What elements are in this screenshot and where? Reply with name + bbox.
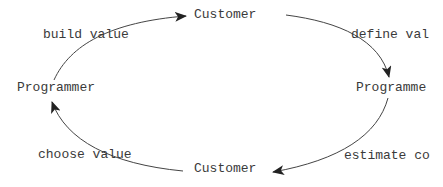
node-programmer-left: Programmer	[17, 81, 95, 95]
arrow-define-value	[286, 15, 389, 77]
node-customer-bottom: Customer	[194, 162, 256, 176]
edge-label-choose-value: choose value	[38, 148, 132, 162]
node-customer-top: Customer	[194, 8, 256, 22]
node-programmer-right: Programme	[356, 81, 426, 95]
edge-label-define-value: define val	[351, 28, 429, 42]
arrow-build-value	[54, 16, 186, 80]
edge-label-build-value: build value	[43, 28, 129, 42]
edge-label-estimate-cost: estimate co	[344, 149, 430, 163]
value-cycle-diagram: Customer build value define val Programm…	[0, 0, 443, 187]
